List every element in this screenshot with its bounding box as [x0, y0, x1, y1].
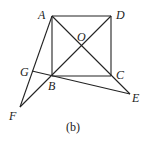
label-B: B	[48, 79, 56, 93]
segment-AE	[52, 16, 130, 94]
label-O: O	[77, 30, 86, 44]
segment-AF	[20, 16, 52, 107]
label-A: A	[37, 8, 46, 22]
caption: (b)	[66, 120, 80, 134]
label-C: C	[116, 68, 125, 82]
label-G: G	[20, 65, 29, 79]
label-E: E	[131, 91, 140, 105]
label-F: F	[8, 109, 17, 123]
label-D: D	[115, 8, 125, 22]
geometry-diagram: A D O C G B E F (b)	[0, 0, 149, 141]
